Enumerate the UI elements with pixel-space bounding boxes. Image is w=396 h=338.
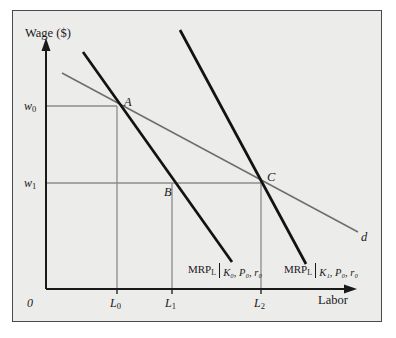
- x-axis-title: Labor: [318, 294, 348, 307]
- y-tick-w1: w1: [24, 177, 36, 189]
- plot-canvas: [0, 0, 396, 338]
- point-label-b: B: [164, 186, 172, 199]
- y-axis-title: Wage ($): [25, 27, 71, 40]
- mrp-label-k1-subscript: L: [307, 268, 312, 277]
- x-tick-L2: L2: [254, 297, 265, 309]
- y-tick-w0: w0: [24, 100, 36, 112]
- y-tick-w0-sub: 0: [32, 104, 36, 114]
- mrp-label-k0-conditions: K₀, P₀, r₀: [223, 268, 262, 279]
- mrp-label-k1: MRPL K₁, P₀, r₀: [284, 264, 358, 279]
- demand-curve-d: [62, 73, 358, 232]
- mrp-label-k1-text: MRP: [284, 263, 307, 275]
- mrp-label-k0-text: MRP: [188, 263, 211, 275]
- x-tick-L1: L1: [165, 297, 176, 309]
- x-tick-L0: L0: [110, 297, 121, 309]
- x-tick-L2-sub: 2: [261, 301, 265, 311]
- origin-label: 0: [27, 297, 33, 309]
- x-tick-L0-sub: 0: [117, 301, 121, 311]
- y-tick-w0-main: w: [24, 99, 32, 113]
- x-tick-L1-main: L: [165, 296, 172, 310]
- x-tick-L0-main: L: [110, 296, 117, 310]
- mrp-label-k1-main: MRPL: [284, 264, 312, 275]
- figure-screenshot: Wage ($) Labor 0 w0 w1 L0 L1 L2 A B C d …: [0, 0, 396, 338]
- mrp-label-k0-divider: [219, 263, 220, 278]
- mrp-label-k0-subscript: L: [211, 268, 216, 277]
- mrp-label-k1-divider: [315, 263, 316, 278]
- mrp-label-k0: MRPL K₀, P₀, r₀: [188, 264, 262, 279]
- guide-lines: [46, 106, 261, 289]
- point-label-c: C: [267, 171, 275, 184]
- mrp-label-k0-main: MRPL: [188, 264, 216, 275]
- mrp-label-k1-conditions: K₁, P₀, r₀: [319, 268, 358, 279]
- x-tick-L1-sub: 1: [172, 301, 176, 311]
- y-tick-w1-main: w: [24, 176, 32, 190]
- x-tick-L2-main: L: [254, 296, 261, 310]
- y-tick-w1-sub: 1: [32, 181, 36, 191]
- demand-curve-label: d: [361, 231, 367, 244]
- point-label-a: A: [124, 96, 132, 109]
